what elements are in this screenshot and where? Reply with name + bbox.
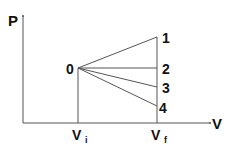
point-2-label: 2 bbox=[162, 61, 170, 77]
x-axis-label: V bbox=[212, 115, 222, 132]
point-4-label: 4 bbox=[159, 100, 167, 116]
vi-subscript: i bbox=[85, 135, 88, 145]
point-3-label: 3 bbox=[162, 80, 170, 96]
x-axis-arrow bbox=[209, 122, 211, 124]
point-0-label: 0 bbox=[66, 61, 74, 77]
y-axis-arrow bbox=[22, 15, 24, 17]
path-0-4 bbox=[78, 68, 157, 106]
vi-label: V bbox=[72, 127, 82, 143]
point-1-label: 1 bbox=[162, 30, 170, 46]
path-0-3 bbox=[78, 68, 157, 87]
path-0-1 bbox=[78, 37, 157, 68]
vf-label: V bbox=[151, 127, 161, 143]
pv-diagram: P V 0 1 2 3 4 V i V f bbox=[0, 0, 233, 147]
y-axis-label: P bbox=[8, 12, 18, 29]
vf-subscript: f bbox=[164, 135, 168, 145]
